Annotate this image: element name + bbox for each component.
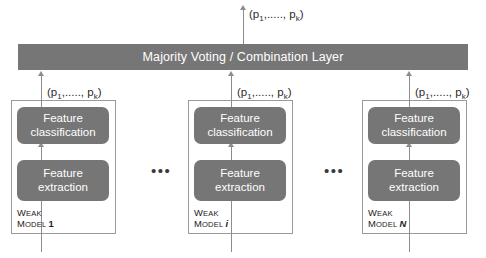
majority-voting-label: Majority Voting / Combination Layer [143,50,344,64]
model-i-output-arrowhead [228,71,234,76]
weak-model-i-caption: WEAK MODEL i [194,208,228,230]
final-output-arrowhead [240,5,246,10]
weak-model-1-caption: WWEAKEAK MODEL 1 [17,208,54,230]
model-i-feature-extraction: Feature extraction [194,160,286,201]
model-i-extraction-line2: extraction [215,181,265,195]
model-i-caption-index: i [226,218,229,229]
model-n-caption-index: N [400,218,407,229]
model-n-output-label: (p1,....., pk) [415,86,470,101]
model-1-extraction-line2: extraction [38,181,88,195]
model-1-caption-index: 1 [49,218,54,229]
model-1-classification-line1: Feature [30,112,95,126]
final-output-arrow-shaft [243,10,244,44]
model-n-classification-line2: classification [381,126,446,140]
model-1-input-shaft [41,234,42,252]
model-1-output-label: (p1,....., pk) [47,86,102,101]
model-i-output-label: (p1,....., pk) [237,86,292,101]
model-1-extraction-line1: Feature [38,167,88,181]
model-i-input-shaft [231,234,232,252]
model-n-feature-classification: Feature classification [368,107,460,144]
model-n-extraction-line2: extraction [389,181,439,195]
model-n-output-arrowhead [406,71,412,76]
ellipsis-left-glyph: ••• [151,162,171,179]
model-i-feature-classification: Feature classification [194,107,286,144]
model-i-classification-line2: classification [207,126,272,140]
ellipsis-right: ••• [324,163,344,178]
ellipsis-right-glyph: ••• [324,162,344,179]
model-1-output-arrowhead [38,71,44,76]
model-i-classification-line1: Feature [207,112,272,126]
model-n-extraction-line1: Feature [389,167,439,181]
model-n-output-arrow-shaft [409,76,410,100]
model-1-feature-extraction: Feature extraction [17,160,109,201]
model-n-classification-line1: Feature [381,112,446,126]
model-i-output-arrow-shaft [231,76,232,100]
final-output-label: (p1,....., pk) [249,8,304,23]
ellipsis-left: ••• [151,163,171,178]
model-1-classification-line2: classification [30,126,95,140]
model-n-input-shaft [409,234,410,252]
majority-voting-layer: Majority Voting / Combination Layer [18,44,468,70]
model-i-extraction-line1: Feature [215,167,265,181]
weak-model-n-caption: WEAK MODEL N [368,208,407,230]
model-1-feature-classification: Feature classification [17,107,109,144]
model-n-feature-extraction: Feature extraction [368,160,460,201]
model-1-output-arrow-shaft [41,76,42,100]
diagram-canvas: (p1,....., pk) (p1,....., pk) Majority V… [0,0,486,258]
